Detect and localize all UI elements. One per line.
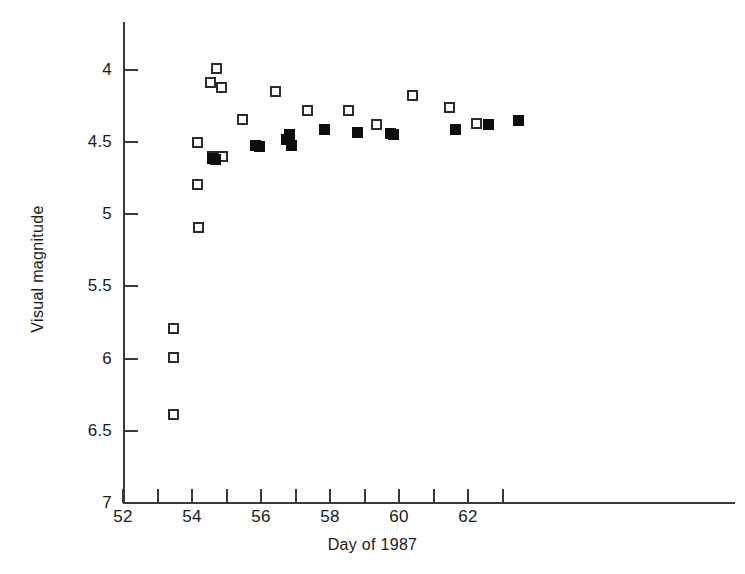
y-tick [125,358,138,360]
x-tick-label: 52 [101,508,145,525]
y-tick-label: 4.5 [60,133,112,150]
y-tick [125,69,138,71]
x-tick-major [191,489,193,503]
data-point-open-square [270,86,281,97]
x-tick-minor [433,489,435,503]
data-point-filled-square [286,140,297,151]
data-point-filled-square [319,124,330,135]
data-point-open-square [237,114,248,125]
data-point-open-square [192,137,203,148]
data-point-open-square [205,77,216,88]
y-tick-label: 6.5 [60,422,112,439]
data-point-open-square [444,102,455,113]
data-point-filled-square [388,129,399,140]
data-point-open-square [168,323,179,334]
x-tick-label: 62 [446,508,490,525]
data-point-open-square [193,222,204,233]
data-point-open-square [192,179,203,190]
x-tick-minor [502,489,504,503]
data-point-filled-square [483,119,494,130]
y-axis-title: Visual magnitude [29,154,47,384]
y-tick-label: 5 [60,205,112,222]
data-point-open-square [168,352,179,363]
data-point-open-square [168,409,179,420]
data-point-open-square [211,63,222,74]
y-tick-label: 4 [60,61,112,78]
x-tick-major [398,489,400,503]
data-point-open-square [302,105,313,116]
x-tick-label: 56 [239,508,283,525]
data-point-filled-square [254,141,265,152]
x-tick-minor [295,489,297,503]
y-tick [125,141,138,143]
x-tick-major [467,489,469,503]
x-tick-label: 54 [170,508,214,525]
x-tick-minor [157,489,159,503]
data-point-open-square [216,82,227,93]
scatter-chart: 44.555.566.57 525456586062 Visual magnit… [0,0,745,574]
x-tick-label: 60 [377,508,421,525]
x-tick-label: 58 [308,508,352,525]
data-point-filled-square [513,115,524,126]
data-point-open-square [371,119,382,130]
data-point-filled-square [352,127,363,138]
x-tick-minor [226,489,228,503]
data-point-filled-square [210,154,221,165]
x-tick-minor [364,489,366,503]
x-axis-title: Day of 1987 [0,536,745,554]
y-tick [125,285,138,287]
y-tick [125,502,138,504]
y-tick [125,430,138,432]
data-point-filled-square [450,124,461,135]
data-point-open-square [471,118,482,129]
y-tick-label: 5.5 [60,277,112,294]
y-tick-label: 6 [60,350,112,367]
x-tick-major [260,489,262,503]
x-tick-major [122,489,124,503]
x-tick-major [329,489,331,503]
data-point-open-square [407,90,418,101]
data-point-open-square [343,105,354,116]
x-axis-line [123,502,735,504]
y-tick [125,213,138,215]
